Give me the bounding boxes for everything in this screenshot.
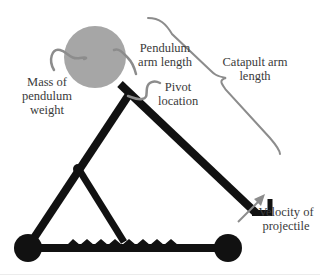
- right-wheel: [214, 234, 242, 262]
- brace-joint: [73, 164, 83, 174]
- velocity-label: Velocity of projectile: [254, 205, 318, 233]
- left-wheel: [14, 234, 42, 262]
- support-brace: [78, 168, 124, 242]
- bottom-divider: [0, 274, 320, 275]
- pivot-label: Pivot location: [158, 80, 198, 108]
- mass-label: Mass of pendulum weight: [22, 75, 72, 117]
- pivot-pointer: [128, 82, 160, 100]
- catapult-arm-label: Catapult arm length: [220, 55, 290, 83]
- pendulum-arm-label: Pendulum arm length: [130, 41, 200, 69]
